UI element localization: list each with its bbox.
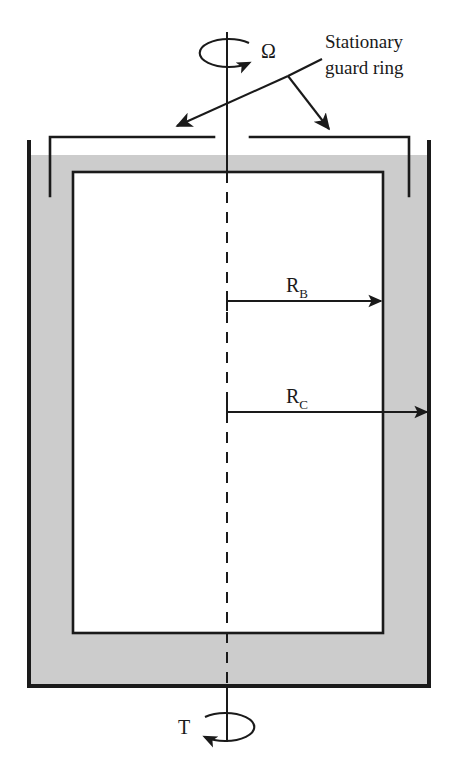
omega-spin-arc xyxy=(200,39,249,67)
cup-radius-label-sub: C xyxy=(299,397,308,412)
angular-velocity-indicator xyxy=(200,39,249,67)
omega-label: Ω xyxy=(261,40,276,62)
guard-ring-leaders xyxy=(177,59,329,129)
guard-ring-label-line2: guard ring xyxy=(325,57,404,78)
guard-ring-leader-right xyxy=(288,76,329,129)
torque-label: T xyxy=(178,716,190,738)
guard-ring-leader-stem xyxy=(288,59,322,76)
torque-spin-arc xyxy=(205,713,254,741)
guard-ring-label-line1: Stationary xyxy=(325,31,404,52)
cup-radius-label-main: R xyxy=(286,385,300,407)
rheometer-diagram: Ω Stationary guard ring RB RC T xyxy=(0,0,452,769)
torque-indicator xyxy=(205,713,254,741)
guard-ring-leader-left xyxy=(177,76,288,126)
bob-radius-label-main: R xyxy=(286,274,300,296)
diagram-canvas: Ω Stationary guard ring RB RC T xyxy=(0,0,452,769)
bob-radius-label-sub: B xyxy=(299,286,308,301)
